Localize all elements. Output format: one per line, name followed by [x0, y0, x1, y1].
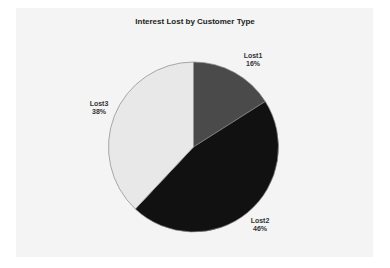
slice-label-lost3: Lost3 38%: [84, 100, 114, 116]
slice-percent: 16%: [238, 60, 268, 68]
slice-name: Lost3: [84, 100, 114, 108]
slice-percent: 46%: [245, 225, 275, 233]
slice-percent: 38%: [84, 108, 114, 116]
slice-label-lost2: Lost2 46%: [245, 217, 275, 233]
pie-chart: [0, 0, 390, 268]
slice-name: Lost1: [238, 52, 268, 60]
slice-name: Lost2: [245, 217, 275, 225]
slice-label-lost1: Lost1 16%: [238, 52, 268, 68]
